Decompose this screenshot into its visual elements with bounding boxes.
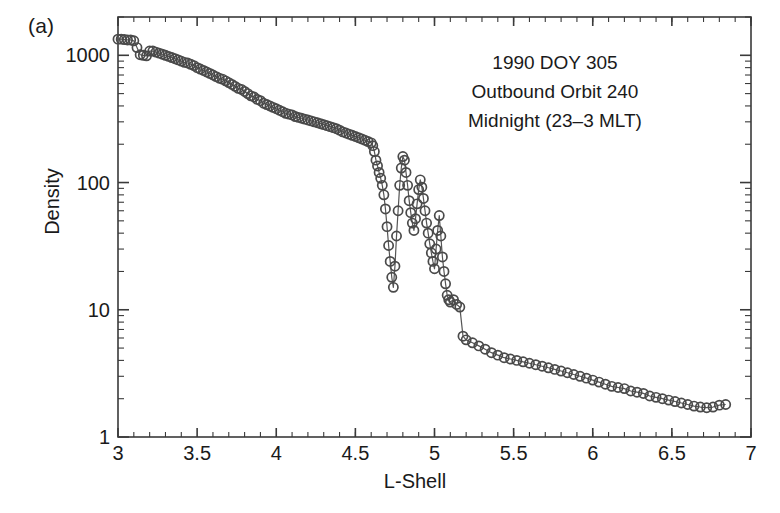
plot-canvas — [0, 0, 780, 513]
x-tick-label: 3.5 — [183, 442, 211, 465]
x-tick-label: 6 — [587, 442, 598, 465]
x-tick-label: 6.5 — [658, 442, 686, 465]
x-tick-label: 4.5 — [341, 442, 369, 465]
x-tick-label: 5.5 — [500, 442, 528, 465]
y-tick-label: 1 — [40, 426, 110, 449]
y-tick-label: 1000 — [40, 44, 110, 67]
y-tick-label: 10 — [40, 298, 110, 321]
x-tick-label: 7 — [745, 442, 756, 465]
x-tick-label: 3 — [112, 442, 123, 465]
y-tick-label: 100 — [40, 171, 110, 194]
x-tick-label: 4 — [271, 442, 282, 465]
density-lshell-figure: (a) 1990 DOY 305 Outbound Orbit 240 Midn… — [0, 0, 780, 513]
x-tick-label: 5 — [429, 442, 440, 465]
